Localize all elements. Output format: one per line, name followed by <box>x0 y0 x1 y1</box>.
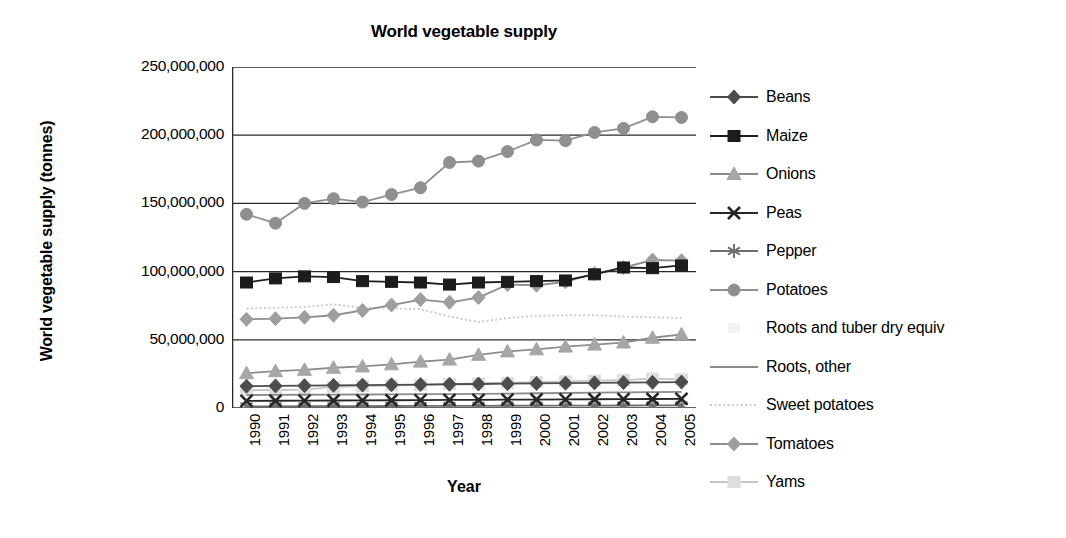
data-point <box>415 182 427 194</box>
data-point <box>531 134 543 146</box>
x-axis-title: Year <box>232 478 696 496</box>
legend-item-pepper[interactable]: Pepper <box>706 232 1062 271</box>
data-point <box>589 269 601 280</box>
legend-item-potatoes[interactable]: Potatoes <box>706 271 1062 310</box>
legend-item-maize[interactable]: Maize <box>706 117 1062 156</box>
data-point <box>385 298 398 312</box>
legend-label: Roots and tuber dry equiv <box>766 319 944 337</box>
data-point <box>676 111 688 123</box>
legend-item-roots-and-tuber-dry-equiv[interactable]: Roots and tuber dry equiv <box>706 309 1062 348</box>
data-point <box>328 272 340 283</box>
y-tick-label: 100,000,000 <box>84 262 224 280</box>
legend-marker-circle-icon <box>706 277 762 303</box>
legend-item-peas[interactable]: Peas <box>706 194 1062 233</box>
data-point <box>728 437 741 451</box>
legend-marker-diamond-icon <box>706 84 762 110</box>
data-point <box>357 196 369 208</box>
series-line-pepper <box>247 405 682 406</box>
data-point <box>356 303 369 317</box>
data-point <box>728 90 741 104</box>
series-line-sweet-potatoes <box>247 304 682 322</box>
y-tick-label: 50,000,000 <box>84 330 224 348</box>
legend-marker-asterisk-icon <box>706 238 762 264</box>
data-point <box>728 130 740 141</box>
data-point <box>728 284 740 296</box>
legend-marker-square-icon <box>706 469 762 495</box>
data-point <box>386 276 398 287</box>
y-axis-title: World vegetable supply (tonnes) <box>38 71 56 411</box>
y-tick-label: 200,000,000 <box>84 125 224 143</box>
series-line-beans <box>247 382 682 386</box>
legend-item-yams[interactable]: Yams <box>706 463 1062 502</box>
legend-label: Peas <box>766 204 802 222</box>
data-point <box>589 126 601 138</box>
data-point <box>473 277 485 288</box>
chart-title: World vegetable supply <box>232 22 696 42</box>
data-point <box>618 262 630 273</box>
data-point <box>299 271 311 282</box>
data-point <box>299 197 311 209</box>
chart-canvas <box>232 67 696 408</box>
legend-item-beans[interactable]: Beans <box>706 78 1062 117</box>
data-point <box>386 189 398 201</box>
data-point <box>270 217 282 229</box>
legend-label: Tomatoes <box>766 435 834 453</box>
data-point <box>676 260 688 271</box>
data-point <box>618 122 630 134</box>
data-point <box>647 263 659 274</box>
data-point <box>444 279 456 290</box>
legend-label: Potatoes <box>766 281 828 299</box>
chart-page: World vegetable supply World vegetable s… <box>0 0 1066 538</box>
data-point <box>298 310 311 324</box>
legend-item-sweet-potatoes[interactable]: Sweet potatoes <box>706 386 1062 425</box>
legend-marker-x-icon <box>706 200 762 226</box>
data-point <box>269 312 282 326</box>
data-point <box>270 273 282 284</box>
y-axis-tick-labels: 050,000,000100,000,000150,000,000200,000… <box>72 0 224 538</box>
data-point <box>443 295 456 309</box>
y-tick-label: 0 <box>84 398 224 416</box>
legend-item-onions[interactable]: Onions <box>706 155 1062 194</box>
legend-marker-triangle-icon <box>706 161 762 187</box>
legend-marker-line-icon <box>706 392 762 418</box>
data-point <box>241 208 253 220</box>
data-point <box>327 308 340 322</box>
data-point <box>241 277 253 288</box>
data-point <box>414 293 427 307</box>
data-point <box>560 135 572 147</box>
legend-item-roots-other[interactable]: Roots, other <box>706 348 1062 387</box>
data-point <box>531 276 543 287</box>
legend-item-tomatoes[interactable]: Tomatoes <box>706 425 1062 464</box>
series-line-roots-other <box>247 392 682 395</box>
data-point <box>560 275 572 286</box>
legend-label: Roots, other <box>766 358 851 376</box>
data-point <box>502 146 514 158</box>
series-line-maize <box>247 265 682 284</box>
legend-label: Maize <box>766 127 808 145</box>
legend-marker-line-icon <box>706 354 762 380</box>
data-point <box>328 193 340 205</box>
legend-label: Yams <box>766 473 805 491</box>
chart-legend: BeansMaizeOnionsPeasPepperPotatoesRoots … <box>706 78 1062 502</box>
x-axis-tick-labels: 1990199119921993199419951996199719981999… <box>232 414 696 480</box>
data-point <box>675 327 689 340</box>
data-point <box>472 291 485 305</box>
y-tick-label: 150,000,000 <box>84 193 224 211</box>
legend-label: Beans <box>766 88 810 106</box>
legend-marker-line-icon <box>706 315 762 341</box>
data-point <box>444 156 456 168</box>
data-point <box>415 277 427 288</box>
legend-label: Pepper <box>766 242 816 260</box>
legend-label: Onions <box>766 165 816 183</box>
data-point <box>357 276 369 287</box>
data-point <box>473 155 485 167</box>
legend-marker-diamond-icon <box>706 431 762 457</box>
data-point <box>647 111 659 123</box>
plot-area <box>232 67 696 408</box>
series-line-potatoes <box>247 117 682 223</box>
data-point <box>502 276 514 287</box>
series-line-peas <box>247 399 682 401</box>
legend-label: Sweet potatoes <box>766 396 874 414</box>
data-point <box>728 477 740 488</box>
y-tick-label: 250,000,000 <box>84 57 224 75</box>
